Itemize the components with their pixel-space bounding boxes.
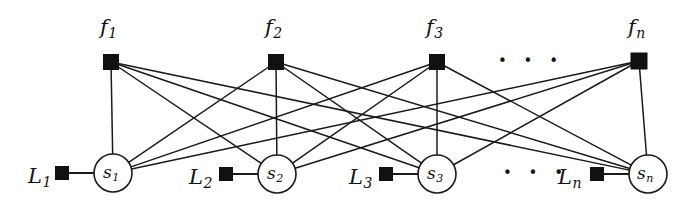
edge-f2-sn — [276, 62, 630, 169]
edge-f3-s2 — [293, 62, 437, 163]
label-base: s — [427, 163, 436, 183]
factor-node-f1 — [104, 55, 119, 70]
label-base: s — [637, 163, 646, 183]
edge-f1-s1 — [111, 62, 113, 154]
label-base: f — [628, 15, 636, 39]
label-base: f — [100, 15, 108, 39]
edge-f2-s2 — [276, 62, 277, 155]
factor-graph-figure: f1f2f3fns1s2s3snL1L2L3Ln• • •• • • — [0, 0, 688, 209]
label-base: L — [349, 165, 363, 189]
label-subscript: n — [572, 175, 581, 191]
edge-f1-s3 — [111, 62, 419, 168]
label-base: L — [28, 164, 42, 188]
variable-node-s2-label: s2 — [267, 165, 283, 184]
label-base: f — [265, 15, 273, 39]
factor-node-fn-label: fn — [628, 17, 645, 40]
label-subscript: n — [636, 25, 645, 41]
factor-node-f3 — [430, 55, 445, 70]
variable-node-sn-label: sn — [637, 165, 653, 184]
label-subscript: 1 — [108, 25, 117, 41]
factor-node-layer — [104, 53, 648, 70]
variable-node-s3-label: s3 — [427, 165, 443, 184]
edge-fn-s1 — [132, 61, 639, 169]
observation-node-L1 — [56, 167, 69, 180]
edge-fn-s2 — [295, 61, 639, 168]
label-subscript: 3 — [363, 175, 372, 191]
label-subscript: 2 — [203, 175, 212, 191]
edge-f2-s1 — [129, 62, 276, 162]
observation-node-L2-label: L2 — [189, 167, 212, 190]
label-base: L — [189, 165, 203, 189]
label-subscript: n — [646, 172, 653, 185]
label-subscript: 3 — [434, 25, 443, 41]
edge-f1-sn — [111, 62, 629, 170]
edge-fn-s3 — [454, 61, 639, 165]
factor-node-f2 — [269, 55, 284, 70]
factor-node-f1-label: f1 — [100, 17, 117, 40]
edge-layer — [111, 61, 646, 170]
label-subscript: 3 — [436, 172, 443, 185]
factor-node-fn — [631, 53, 647, 69]
label-base: f — [426, 15, 434, 39]
edge-fn-sn — [639, 61, 646, 155]
label-subscript: 2 — [273, 25, 282, 41]
label-subscript: 1 — [112, 171, 119, 184]
label-subscript: 2 — [276, 172, 283, 185]
factor-node-f3-label: f3 — [426, 17, 443, 40]
label-base: s — [103, 162, 112, 182]
observation-node-L3 — [380, 168, 393, 181]
observation-node-Ln — [591, 168, 604, 181]
observation-node-L1-label: L1 — [28, 166, 51, 189]
top-ellipsis: • • • — [498, 54, 564, 69]
factor-node-f2-label: f2 — [265, 17, 282, 40]
observation-node-L3-label: L3 — [349, 167, 372, 190]
observation-node-L2 — [220, 168, 233, 181]
label-subscript: 1 — [42, 174, 51, 190]
label-base: s — [267, 163, 276, 183]
variable-node-s1-label: s1 — [103, 164, 119, 183]
bottom-ellipsis: • • • — [503, 166, 569, 181]
